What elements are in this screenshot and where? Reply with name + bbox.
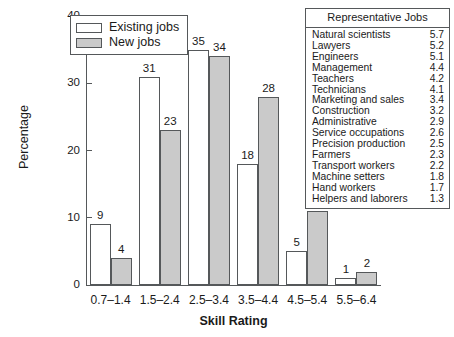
y-axis-tick-label-wrap: 10	[42, 212, 80, 224]
bar	[307, 211, 328, 285]
y-axis-tick-label: 30	[46, 77, 80, 89]
table-row: Teachers4.2	[312, 74, 444, 85]
y-axis-title: Percentage	[17, 67, 31, 207]
bar	[335, 278, 356, 285]
legend-item: New jobs	[76, 35, 179, 50]
jobs-table-header: Representative Jobs	[306, 9, 449, 28]
bar	[188, 50, 209, 285]
table-row: Management4.4	[312, 63, 444, 74]
job-name: Teachers	[312, 74, 354, 85]
job-value: 1.7	[430, 183, 444, 194]
y-axis-tick-label-wrap: 20	[42, 145, 80, 157]
x-axis-title: Skill Rating	[86, 314, 381, 328]
table-row: Hand workers1.7	[312, 183, 444, 194]
y-axis-tick-label-wrap: 0	[42, 279, 80, 291]
jobs-table-body: Natural scientists5.7Lawyers5.2Engineers…	[306, 28, 449, 208]
job-name: Hand workers	[312, 183, 376, 194]
job-name: Management	[312, 63, 372, 74]
bar-chart: 010203040 Percentage 9431233534182851112…	[0, 0, 454, 337]
job-name: Helpers and laborers	[312, 194, 408, 205]
bar-value-label: 2	[348, 258, 385, 270]
bar	[356, 272, 377, 285]
y-axis-tick	[86, 83, 92, 84]
job-value: 4.2	[430, 74, 444, 85]
x-axis-line	[86, 285, 381, 286]
y-axis-tick-label-wrap: 30	[42, 77, 80, 89]
job-value: 4.4	[430, 63, 444, 74]
bar	[237, 164, 258, 285]
legend-item: Existing jobs	[76, 20, 179, 35]
bar-value-label: 9	[82, 210, 119, 222]
legend-swatch-icon	[76, 23, 102, 33]
y-axis-tick-label: 20	[46, 145, 80, 157]
legend-swatch-icon	[76, 38, 102, 48]
y-axis-tick-label: 10	[46, 212, 80, 224]
job-value: 1.3	[430, 194, 444, 205]
bar-value-label: 31	[131, 63, 168, 75]
bar-value-label: 4	[103, 244, 140, 256]
legend-label: Existing jobs	[109, 21, 179, 34]
y-axis-tick	[86, 150, 92, 151]
representative-jobs-table: Representative Jobs Natural scientists5.…	[305, 8, 450, 209]
bar	[258, 97, 279, 285]
bar	[209, 56, 230, 285]
chart-legend: Existing jobsNew jobs	[70, 15, 188, 55]
bar	[111, 258, 132, 285]
legend-label: New jobs	[109, 36, 160, 49]
bar	[139, 77, 160, 285]
table-row: Helpers and laborers1.3	[312, 194, 444, 205]
x-axis-tick-label: 5.5–6.4	[326, 294, 386, 306]
bar-value-label: 34	[201, 42, 238, 54]
bar-value-label: 23	[152, 116, 189, 128]
bar-value-label: 28	[250, 83, 287, 95]
y-axis-tick-label: 0	[46, 279, 80, 291]
bar	[160, 130, 181, 285]
bar	[286, 251, 307, 285]
